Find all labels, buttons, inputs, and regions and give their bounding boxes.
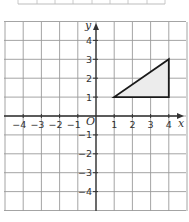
origin-label: O bbox=[86, 115, 95, 128]
y-tick-label: −1 bbox=[78, 129, 92, 140]
x-tick-label: 1 bbox=[111, 119, 117, 130]
y-tick-label: −3 bbox=[78, 167, 92, 178]
y-tick-label: −2 bbox=[78, 148, 92, 159]
y-tick-label: 4 bbox=[86, 35, 92, 46]
y-axis-arrow-icon bbox=[93, 23, 99, 30]
x-tick-label: −1 bbox=[67, 119, 81, 130]
x-axis-label: x bbox=[178, 117, 185, 130]
x-tick-label: 2 bbox=[129, 119, 135, 130]
y-tick-label: −4 bbox=[78, 186, 92, 197]
x-tick-label: −3 bbox=[30, 119, 44, 130]
y-tick-label: 1 bbox=[86, 92, 92, 103]
y-axis-label: y bbox=[84, 19, 92, 32]
x-tick-label: −4 bbox=[12, 119, 26, 130]
x-tick-label: −2 bbox=[49, 119, 63, 130]
coordinate-grid-diagram: −4−3−2−112344321−1−2−3−4 x y O bbox=[0, 0, 189, 222]
y-tick-label: 2 bbox=[86, 73, 92, 84]
x-tick-label: 3 bbox=[148, 119, 154, 130]
top-table-edge bbox=[18, 0, 165, 4]
y-tick-label: 3 bbox=[86, 54, 92, 65]
x-tick-label: 4 bbox=[166, 119, 172, 130]
